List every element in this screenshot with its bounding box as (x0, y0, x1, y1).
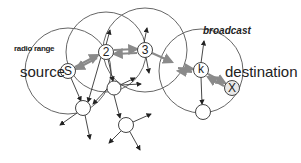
node-destination: X (225, 81, 240, 96)
broadcast-arrows (60, 28, 204, 150)
node-unlabeled-1 (76, 101, 91, 116)
node-x-label: X (228, 81, 236, 95)
node-3-label: 3 (142, 43, 149, 57)
source-label: source (20, 64, 65, 79)
radio-range-circles (25, 8, 243, 114)
node-k: k (194, 62, 209, 78)
node-unlabeled-4 (196, 105, 211, 120)
broadcast-label: broadcast (203, 26, 251, 36)
radio-range-label: radio range (14, 45, 54, 53)
node-unlabeled-2 (107, 81, 121, 95)
node-2: 2 (99, 45, 114, 60)
node-k-label: k (198, 62, 205, 76)
node-2-label: 2 (103, 45, 110, 59)
node-unlabeled-3 (119, 118, 134, 133)
network-diagram: S 2 3 k X (0, 0, 301, 163)
node-s-label: S (64, 64, 72, 78)
destination-label: destination (225, 64, 298, 79)
node-3: 3 (138, 43, 153, 58)
